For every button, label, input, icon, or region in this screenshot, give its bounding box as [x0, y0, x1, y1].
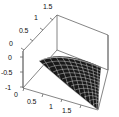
z-tick-label-0: 0 — [8, 54, 12, 61]
y-tick-label-1: 1 — [34, 14, 38, 21]
y-tick-label-0: 0 — [9, 40, 13, 47]
z-tick-label--1: -1 — [5, 84, 11, 91]
x-tick-label-1_5: 1.5 — [62, 107, 71, 114]
x-tick-label-0_5: 0.5 — [27, 98, 36, 105]
z-tick-label--0_5: -0.5 — [1, 69, 12, 76]
y-tick-label-1_5: 1.5 — [43, 3, 52, 10]
x-tick-label-0: 0 — [14, 91, 18, 98]
y-tick-label-0_5: 0.5 — [19, 27, 28, 34]
plot-canvas — [0, 0, 119, 117]
surface-plot-3d: 0 0.5 1 1.5 0 -0.5 -1 0 0.5 1 1.5 — [0, 0, 119, 117]
x-tick-label-1: 1 — [49, 103, 53, 110]
